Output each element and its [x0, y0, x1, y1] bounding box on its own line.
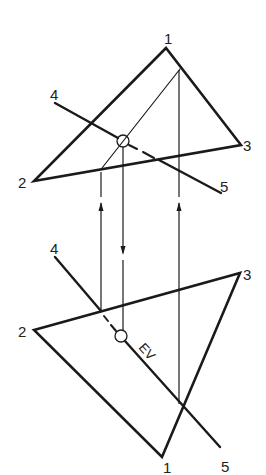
front-line-4-5-hidden-a: [104, 316, 108, 321]
front-line-4-5-visible-a: [55, 257, 101, 311]
top-triangle: [34, 48, 241, 181]
arrow-up-icon: [99, 202, 104, 211]
front-view-labels: 1 2 3 4 5 EV: [18, 240, 251, 475]
front-label-4: 4: [50, 240, 58, 257]
piercing-point-diagram: 1 2 3 4 5 1 2 3 4 5 EV: [0, 0, 266, 475]
top-label-4: 4: [50, 86, 58, 103]
front-label-1: 1: [163, 459, 171, 475]
front-label-2: 2: [18, 323, 26, 340]
front-label-5: 5: [221, 458, 229, 475]
top-line-4-5-visible-b: [159, 160, 221, 193]
top-line-4-5-hidden-b: [143, 152, 154, 158]
top-line-4-5-visible-a: [55, 103, 118, 138]
front-line-4-5-hidden-b: [111, 325, 116, 331]
front-view: [34, 257, 240, 457]
top-label-2: 2: [18, 174, 26, 191]
top-label-1: 1: [164, 30, 172, 47]
front-pierce-point-circle: [115, 330, 127, 342]
arrow-down-icon: [121, 246, 126, 255]
top-view: [34, 48, 241, 193]
top-line-4-5-hidden-a: [129, 145, 137, 149]
edge-view-label: EV: [136, 340, 159, 363]
front-triangle: [34, 273, 240, 457]
top-construction-line: [102, 69, 180, 168]
top-label-5: 5: [220, 178, 228, 195]
front-label-3: 3: [243, 266, 251, 283]
top-label-3: 3: [243, 137, 251, 154]
arrow-up-icon: [177, 202, 182, 211]
